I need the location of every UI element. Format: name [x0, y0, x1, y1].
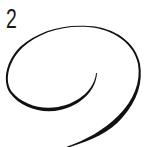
- spiral-stroke: [0, 0, 148, 147]
- spiral-stroke-path: [6, 26, 141, 147]
